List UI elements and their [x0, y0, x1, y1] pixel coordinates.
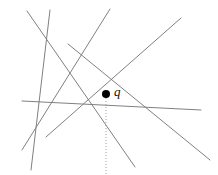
query-point-group [102, 90, 110, 98]
line-6 [68, 44, 210, 160]
line-2 [31, 10, 50, 170]
line-3 [22, 9, 110, 150]
query-point-label: q [114, 85, 121, 98]
query-point-dot [102, 90, 110, 98]
line-5 [22, 101, 201, 110]
arrangement-canvas [0, 0, 218, 175]
line-arrangement-figure: q [0, 0, 218, 175]
